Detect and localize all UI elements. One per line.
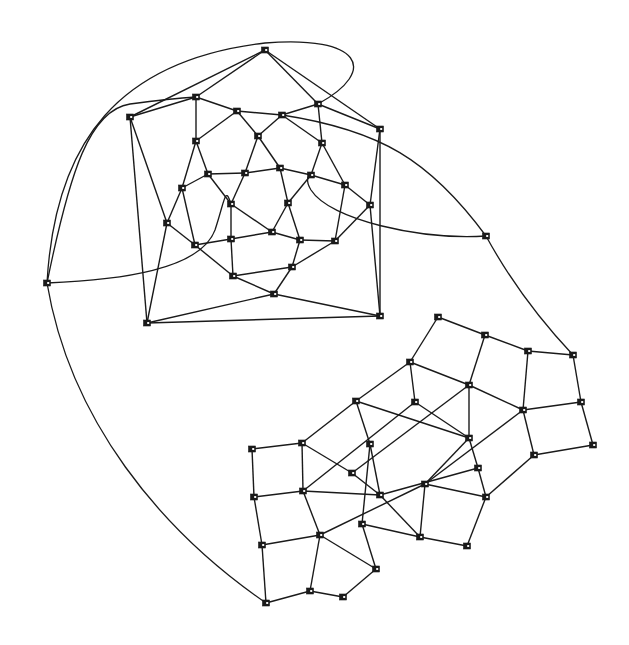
edge-p21-p24 xyxy=(303,491,320,535)
edge-r-x xyxy=(288,203,300,240)
edge-a-c xyxy=(196,50,265,97)
node-p10 xyxy=(412,399,419,405)
curve-ext-left-to-a xyxy=(47,42,354,283)
curve-ext-right-to-n xyxy=(308,175,486,237)
edge-p25-p26 xyxy=(362,524,420,537)
edge-p18-p19 xyxy=(478,468,486,497)
edge-s-ad xyxy=(370,205,380,316)
edge-p2-p6 xyxy=(469,335,485,385)
node-p28 xyxy=(263,600,270,606)
node-p20 xyxy=(249,446,256,452)
node-f xyxy=(315,101,322,107)
edge-m-r xyxy=(280,168,288,203)
node-w xyxy=(269,229,276,235)
node-t xyxy=(164,220,171,226)
edge-p1-p5 xyxy=(410,317,438,362)
node-p23 xyxy=(259,542,266,548)
edge-p20-p32 xyxy=(252,449,254,497)
edge-p9-p11 xyxy=(356,401,469,438)
edge-e-j xyxy=(282,115,322,143)
node-p16 xyxy=(349,470,356,476)
edge-p12-p19 xyxy=(486,455,534,497)
curve-ext-left-to-h xyxy=(47,196,231,283)
edge-p3-p7 xyxy=(523,351,528,410)
node-ext_left xyxy=(44,280,51,286)
node-p5 xyxy=(407,359,414,365)
node-p19 xyxy=(483,494,490,500)
edge-w-x xyxy=(272,232,300,240)
node-s xyxy=(367,202,374,208)
node-d xyxy=(234,108,241,114)
edge-m-n xyxy=(280,168,311,175)
edge-d-h xyxy=(196,111,237,141)
edge-b-ac xyxy=(130,117,147,323)
node-o xyxy=(342,182,349,188)
edge-p11-p18 xyxy=(469,438,478,468)
edge-p23-p24 xyxy=(262,535,320,545)
edge-z-ab xyxy=(233,276,274,294)
edge-t-ac xyxy=(147,223,167,323)
node-h xyxy=(193,138,200,144)
edge-d-e xyxy=(237,111,282,115)
curve-ext-right-to-p4 xyxy=(486,236,573,355)
edge-x-y xyxy=(300,240,335,241)
node-p11 xyxy=(466,435,473,441)
node-p6 xyxy=(466,382,473,388)
edge-k-q xyxy=(208,174,231,204)
node-p13 xyxy=(590,442,597,448)
edge-p7-p17 xyxy=(425,410,523,484)
node-p3 xyxy=(525,348,532,354)
edge-p1-p2 xyxy=(438,317,485,335)
edge-a-b xyxy=(130,50,265,117)
node-p7 xyxy=(520,407,527,413)
edge-p21-p32 xyxy=(254,491,303,497)
node-p8 xyxy=(578,399,585,405)
node-y xyxy=(332,238,339,244)
node-p xyxy=(179,185,186,191)
edge-p17-p24 xyxy=(320,484,425,535)
node-j xyxy=(319,140,326,146)
edge-p17-p19 xyxy=(425,484,486,497)
curve-ext-left-to-c xyxy=(47,97,196,283)
edge-p29-p30 xyxy=(310,591,343,597)
edge-p14-p21 xyxy=(302,443,303,491)
edge-u-z xyxy=(195,245,233,276)
node-n xyxy=(308,172,315,178)
node-aa xyxy=(289,264,296,270)
edge-n-r xyxy=(288,175,311,203)
node-p17 xyxy=(422,481,429,487)
edge-p30-p31 xyxy=(343,569,376,597)
edge-l-m xyxy=(245,168,280,173)
edge-j-n xyxy=(311,143,322,175)
edge-l-q xyxy=(231,173,245,204)
node-i xyxy=(255,133,262,139)
edge-p28-p29 xyxy=(266,591,310,603)
node-g xyxy=(377,126,384,132)
node-b xyxy=(127,114,134,120)
edge-v-z xyxy=(231,239,233,276)
edge-p9-p14 xyxy=(302,401,356,443)
edge-p19-p27 xyxy=(467,497,486,546)
edge-ac-ad xyxy=(147,316,380,323)
node-ext_right xyxy=(483,233,490,239)
edge-ab-ac xyxy=(147,294,274,323)
node-p21 xyxy=(300,488,307,494)
edge-p7-p8 xyxy=(523,402,581,410)
edge-p2-p3 xyxy=(485,335,528,351)
edge-ab-ad xyxy=(274,294,380,316)
node-p30 xyxy=(340,594,347,600)
graph-drawing xyxy=(0,0,629,645)
edge-v-w xyxy=(231,232,272,239)
edge-p23-p28 xyxy=(262,545,266,603)
edge-e-f xyxy=(282,104,318,115)
graph-nodes xyxy=(44,47,597,606)
node-ab xyxy=(271,291,278,297)
node-u xyxy=(192,242,199,248)
edge-r-w xyxy=(272,203,288,232)
edge-p12-p13 xyxy=(534,445,593,455)
curve-ext-left-to-p28 xyxy=(47,283,266,603)
edge-p6-p7 xyxy=(469,385,523,410)
edge-p3-p4 xyxy=(528,351,573,355)
edge-p-t xyxy=(167,188,182,223)
curved-edges xyxy=(47,42,573,603)
